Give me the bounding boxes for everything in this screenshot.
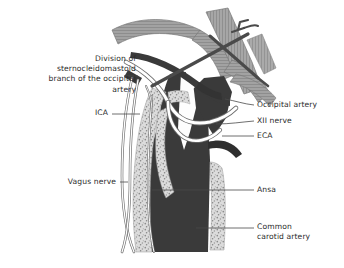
- label-division-scm-branch: Division of sternocleidomastoid branch o…: [10, 54, 136, 95]
- atherosclerotic-plaque-lateral: [210, 162, 225, 250]
- label-ica: ICA: [72, 108, 108, 118]
- label-common-carotid-artery: Common carotid artery: [257, 222, 343, 242]
- label-eca: ECA: [257, 131, 343, 141]
- anatomical-figure: Division of sternocleidomastoid branch o…: [0, 0, 344, 268]
- label-ansa: Ansa: [257, 185, 343, 195]
- label-occipital-artery: Occipital artery: [257, 100, 343, 110]
- label-xii-nerve: XII nerve: [257, 116, 343, 126]
- label-vagus-nerve: Vagus nerve: [48, 177, 116, 187]
